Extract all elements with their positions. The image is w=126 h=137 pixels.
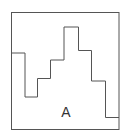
region-label: A	[61, 104, 71, 120]
diagram-canvas: A	[0, 0, 126, 137]
